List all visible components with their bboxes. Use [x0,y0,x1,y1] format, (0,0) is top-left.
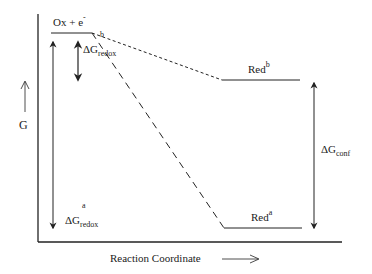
dg-redox-b-sub: redox [98,49,116,58]
dg-symbol: ΔG [321,143,336,155]
path-to-red-a [92,33,224,228]
dg-redox-a-sup: a [82,201,86,210]
ox-sup: - [83,13,86,22]
ox-text: Ox + e [53,16,83,28]
dg-conf-sub: conf [336,149,350,158]
red-b-text: Red [248,63,266,75]
g-axis-label: G [19,118,28,133]
dg-symbol: ΔG [83,43,98,55]
red-a-text: Red [251,211,269,223]
dg-conf-label: ΔGconf [321,143,350,155]
dg-redox-b-label: ΔGbredox [83,43,116,55]
red-a-sup: a [269,208,273,217]
x-axis-label: Reaction Coordinate [110,252,201,264]
dg-redox-a-label: ΔGaredox [65,214,98,226]
ox-label: Ox + e- [53,16,86,28]
x-axis-text: Reaction Coordinate [110,252,201,264]
dg-redox-a-sub: redox [80,220,98,229]
red-b-sup: b [266,60,270,69]
red-a-label: Reda [251,211,272,223]
g-text: G [19,118,28,132]
dg-redox-b-sup: b [100,30,104,39]
energy-diagram-canvas [0,0,372,274]
red-b-label: Redb [248,63,270,75]
dg-symbol: ΔG [65,214,80,226]
